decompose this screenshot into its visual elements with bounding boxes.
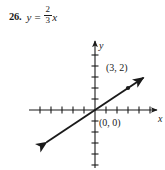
fraction-numerator: 2 <box>44 5 51 14</box>
label-point-3-2: (3, 2) <box>106 62 128 74</box>
problem-number: 26. <box>9 8 22 23</box>
equation-variable: x <box>52 8 57 23</box>
equation-left-side: y <box>27 8 32 23</box>
fraction-two-thirds: 2 3 <box>44 5 52 26</box>
y-axis-label: y <box>98 40 104 51</box>
equals-sign: = <box>34 8 40 23</box>
y-axis: y <box>92 40 105 168</box>
problem-header: 26. y = 2 3 x <box>9 5 57 26</box>
fraction-denominator: 3 <box>44 16 51 25</box>
figure-container: 26. y = 2 3 x <box>0 0 165 170</box>
equation: y = 2 3 x <box>27 5 58 26</box>
label-point-origin: (0, 0) <box>99 117 121 129</box>
x-axis-label: x <box>157 113 163 124</box>
data-point-marker-3-2 <box>126 86 130 90</box>
coordinate-graph: x y <box>27 36 165 170</box>
